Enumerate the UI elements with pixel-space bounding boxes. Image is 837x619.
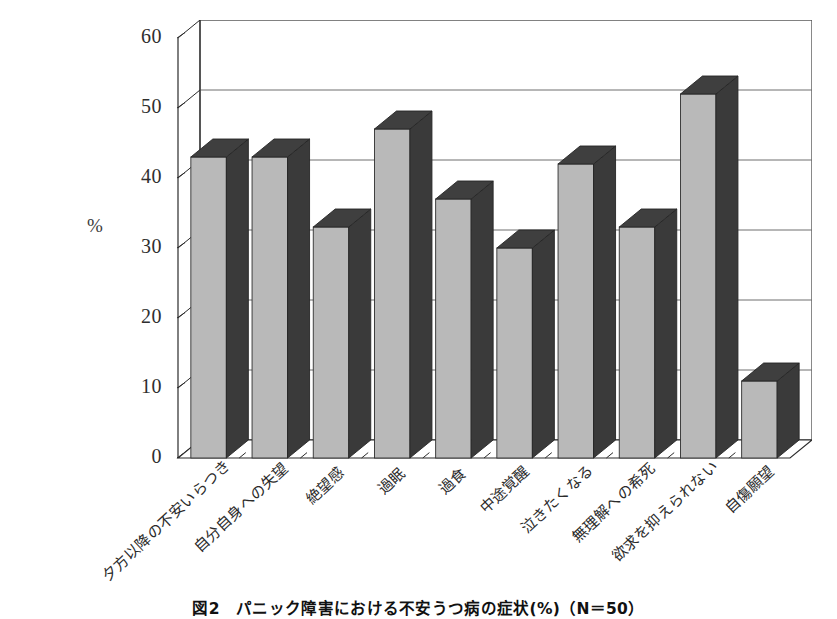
y-axis-unit-label: %	[78, 215, 112, 237]
bar-column	[313, 209, 370, 458]
y-axis-tick-label: 50	[116, 95, 162, 118]
bar-column	[680, 76, 737, 458]
x-axis-category-label: 自傷願望	[719, 460, 778, 517]
x-axis-category-label: 過眠	[372, 462, 409, 498]
bar-column	[742, 363, 799, 458]
y-axis-tick-label: 60	[116, 25, 162, 48]
y-axis-tick-label: 40	[116, 165, 162, 188]
bar-column	[436, 181, 493, 458]
y-axis-tick-label: 10	[116, 375, 162, 398]
bar-chart-canvas	[172, 20, 812, 460]
y-axis-tick-label: 0	[116, 445, 162, 468]
x-axis-category-label: 中途覚醒	[474, 460, 533, 517]
bar-column	[497, 230, 554, 458]
x-axis-category-label: 絶望感	[300, 461, 348, 508]
x-axis-category-label: 過食	[433, 462, 470, 498]
bar-column	[558, 146, 615, 458]
y-axis-tick-label: 30	[116, 235, 162, 258]
x-axis-category-label: 欲求を抑えられない	[606, 456, 722, 566]
bar-column	[619, 209, 676, 458]
figure-root: % 0102030405060 夕方以降の不安いらつき自分自身への失望絶望感過眠…	[0, 0, 837, 619]
bar-column	[252, 139, 309, 458]
bar-column	[374, 111, 431, 458]
figure-caption: 図2 パニック障害における不安うつ病の症状(%)（N＝50）	[0, 596, 837, 619]
y-axis-tick-label: 20	[116, 305, 162, 328]
bar-column	[191, 139, 248, 458]
plot-area	[172, 20, 812, 460]
